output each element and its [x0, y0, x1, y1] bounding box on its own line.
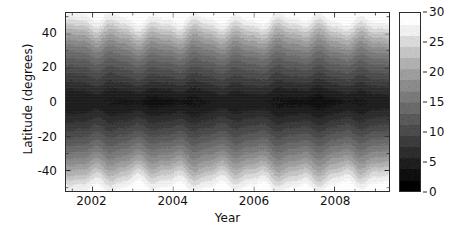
- x-axis-tick: 2002: [76, 194, 107, 208]
- colorbar-tick-mark: [423, 192, 427, 193]
- contour-plot-canvas: [66, 13, 389, 191]
- colorbar-tick: 20: [429, 66, 444, 78]
- colorbar-tick-labels: 302520151050: [423, 12, 447, 192]
- colorbar-tick-mark: [423, 132, 427, 133]
- colorbar-tick-mark: [423, 102, 427, 103]
- y-axis-tick: -40: [37, 165, 57, 177]
- x-axis-tick: 2004: [157, 194, 188, 208]
- colorbar: [399, 12, 421, 192]
- colorbar-tick: 10: [429, 126, 444, 138]
- y-axis-tick: 0: [49, 96, 57, 108]
- colorbar-tick-mark: [423, 72, 427, 73]
- colorbar-canvas: [400, 13, 420, 191]
- x-axis-tick: 2008: [320, 194, 351, 208]
- figure-container: 40200-20-40 2002200420062008 Year Latitu…: [0, 0, 465, 234]
- x-axis-label: Year: [65, 211, 390, 225]
- colorbar-tick: 0: [429, 186, 437, 198]
- y-axis-tick: 20: [42, 61, 57, 73]
- y-axis-label: Latitude (degrees): [21, 9, 35, 189]
- colorbar-tick-mark: [423, 12, 427, 13]
- colorbar-tick: 30: [429, 6, 444, 18]
- y-axis-tick: -20: [37, 131, 57, 143]
- colorbar-tick: 15: [429, 96, 444, 108]
- colorbar-tick-mark: [423, 162, 427, 163]
- x-axis-tick: 2006: [239, 194, 270, 208]
- colorbar-tick: 5: [429, 156, 437, 168]
- colorbar-tick-mark: [423, 42, 427, 43]
- y-axis-tick: 40: [42, 27, 57, 39]
- contour-plot-area: [65, 12, 390, 192]
- colorbar-tick: 25: [429, 36, 444, 48]
